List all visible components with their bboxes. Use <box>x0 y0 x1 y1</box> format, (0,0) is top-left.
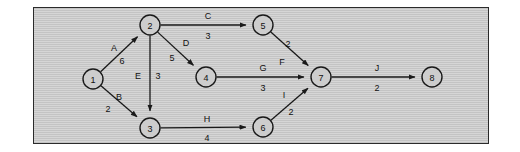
edge-a <box>101 37 138 72</box>
edge-h-name: H <box>204 114 211 124</box>
edge-d-name: D <box>183 38 190 48</box>
edge-i-name: I <box>283 90 286 100</box>
edge-g-name: G <box>259 63 266 73</box>
edge-g-weight: 3 <box>260 83 265 93</box>
node-7: 7 <box>311 67 331 87</box>
node-2-circle <box>140 15 160 35</box>
node-5: 5 <box>253 15 273 35</box>
edge-f-name: F <box>279 57 285 67</box>
node-6: 6 <box>253 117 273 137</box>
edge-b-weight: 2 <box>105 104 110 114</box>
edge-j-weight: 2 <box>374 83 379 93</box>
edge-h <box>160 127 245 128</box>
edge-b <box>101 86 137 117</box>
node-4-circle <box>196 67 216 87</box>
network-diagram-panel: 12345678 A6B2C3D5E3F2G3H4I2J2 <box>33 7 489 144</box>
node-1: 1 <box>83 69 103 89</box>
node-3-circle <box>140 118 160 138</box>
edge-e-name: E <box>135 71 141 81</box>
edge-i <box>271 88 308 120</box>
node-5-circle <box>253 15 273 35</box>
edges-layer <box>101 25 415 128</box>
edge-d-weight: 5 <box>169 53 174 63</box>
node-8-circle <box>422 67 442 87</box>
node-3: 3 <box>140 118 160 138</box>
edge-i-weight: 2 <box>288 107 293 117</box>
node-4: 4 <box>196 67 216 87</box>
edge-a-weight: 6 <box>119 56 124 66</box>
edge-h-weight: 4 <box>204 133 209 143</box>
network-diagram-svg: 12345678 A6B2C3D5E3F2G3H4I2J2 <box>34 8 488 143</box>
edge-c-weight: 3 <box>205 31 210 41</box>
edge-a-name: A <box>111 43 117 53</box>
node-2: 2 <box>140 15 160 35</box>
page-root: 12345678 A6B2C3D5E3F2G3H4I2J2 <box>0 0 520 152</box>
edge-j-name: J <box>375 63 380 73</box>
node-6-circle <box>253 117 273 137</box>
node-8: 8 <box>422 67 442 87</box>
edge-c-name: C <box>205 11 212 21</box>
node-7-circle <box>311 67 331 87</box>
node-1-circle <box>83 69 103 89</box>
edge-f <box>271 32 308 66</box>
edge-d <box>158 32 194 65</box>
edge-e-weight: 3 <box>155 71 160 81</box>
